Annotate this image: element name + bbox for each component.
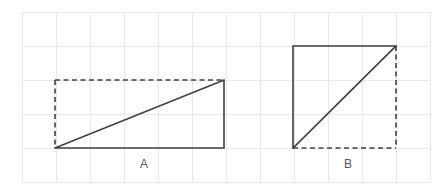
shape-b-solid-edges [293, 46, 396, 148]
figure-canvas: A B [0, 0, 444, 195]
grid-group [22, 12, 431, 183]
geometry-figure: A B [0, 0, 444, 195]
shape-a-group[interactable]: A [55, 80, 224, 171]
shape-b-group[interactable]: B [293, 46, 396, 171]
shape-a-label: A [140, 157, 148, 171]
shape-b-label: B [344, 157, 352, 171]
